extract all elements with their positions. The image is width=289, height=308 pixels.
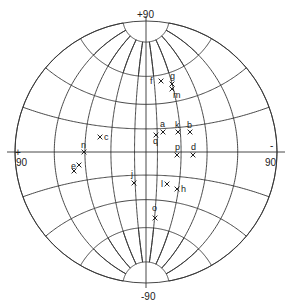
grid-line bbox=[149, 228, 153, 262]
point-label: j bbox=[130, 169, 133, 179]
label-right-sign: - bbox=[270, 140, 273, 151]
point-label: l bbox=[161, 179, 163, 189]
point-label: d bbox=[191, 142, 196, 152]
point-label: g bbox=[170, 71, 175, 81]
point-p: p bbox=[175, 142, 180, 157]
net-axes bbox=[7, 16, 285, 288]
label-right: 90 bbox=[265, 157, 277, 168]
grid-line bbox=[156, 40, 169, 73]
grid-line bbox=[156, 231, 169, 264]
point-label: k bbox=[175, 120, 180, 130]
point-label: a bbox=[160, 119, 165, 129]
stereographic-net: fgmaqkbpdcnejlho +90 -90 + 90 - 90 bbox=[0, 0, 289, 308]
point-l: l bbox=[161, 179, 169, 189]
point-label: h bbox=[181, 184, 186, 194]
point-label: f bbox=[150, 76, 153, 86]
grid-line bbox=[123, 231, 136, 264]
point-c: c bbox=[98, 132, 109, 142]
point-g: g bbox=[170, 71, 175, 86]
point-label: p bbox=[175, 142, 180, 152]
grid-line bbox=[93, 30, 125, 55]
grid-line bbox=[123, 40, 136, 73]
point-label: q bbox=[153, 136, 158, 146]
point-o: o bbox=[152, 203, 157, 220]
point-h: h bbox=[175, 184, 186, 194]
point-label: n bbox=[81, 140, 86, 150]
point-m: m bbox=[170, 87, 181, 100]
point-a: a bbox=[160, 119, 165, 134]
label-left: 90 bbox=[16, 157, 28, 168]
grid-line bbox=[149, 42, 153, 76]
grid-line bbox=[138, 42, 142, 76]
point-f: f bbox=[150, 76, 163, 86]
label-bottom: -90 bbox=[141, 291, 156, 302]
point-b: b bbox=[187, 120, 192, 134]
grid-line bbox=[138, 228, 142, 262]
point-label: c bbox=[104, 132, 109, 142]
point-label: m bbox=[173, 90, 181, 100]
grid-line bbox=[93, 249, 125, 274]
point-d: d bbox=[191, 142, 196, 157]
label-top: +90 bbox=[137, 9, 154, 20]
grid-line bbox=[166, 249, 198, 274]
grid-line bbox=[166, 30, 198, 55]
point-label: b bbox=[187, 120, 192, 130]
point-label: o bbox=[152, 203, 157, 213]
